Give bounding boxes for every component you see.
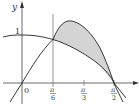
x-tick-pi-over-6-num: π xyxy=(49,86,55,94)
graph-figure: y 1 0 π 6 π 3 π 2 xyxy=(0,0,139,107)
x-tick-pi-over-2-num: π xyxy=(110,86,116,94)
x-tick-pi-over-3-num: π xyxy=(80,86,86,94)
origin-label: 0 xyxy=(24,86,29,95)
y-axis-label: y xyxy=(11,2,18,12)
shaded-region xyxy=(53,21,114,83)
y-axis-arrow-icon xyxy=(20,1,24,8)
x-tick-pi-over-2-den: 2 xyxy=(112,94,116,102)
y-tick-label-1: 1 xyxy=(15,27,20,36)
x-axis-arrow-icon xyxy=(133,81,139,85)
x-tick-pi-over-6-den: 6 xyxy=(51,94,55,102)
x-tick-pi-over-3-den: 3 xyxy=(82,94,86,102)
